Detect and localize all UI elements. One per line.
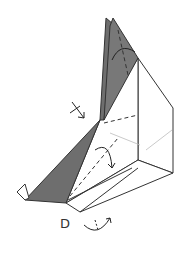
point-d-label: D <box>60 216 70 231</box>
left-white-tip <box>17 184 29 200</box>
swivel-axis-icon <box>95 220 98 230</box>
origami-diagram <box>0 0 192 259</box>
push-tick-icon <box>70 106 80 113</box>
